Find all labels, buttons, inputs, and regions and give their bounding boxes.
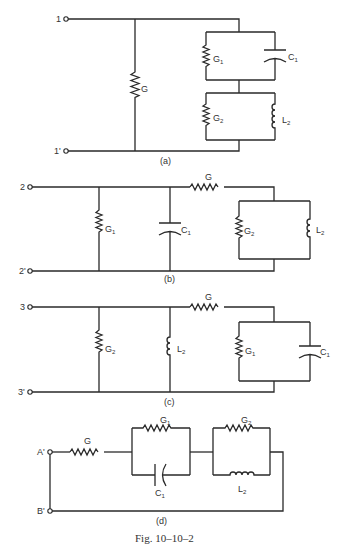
label-G1: G1 xyxy=(105,224,116,235)
terminal-2 xyxy=(28,185,32,189)
label-G: G xyxy=(141,84,148,94)
terminal-1 xyxy=(64,17,68,21)
wire xyxy=(132,428,190,475)
label-L2: L2 xyxy=(282,115,291,126)
label-C1: C1 xyxy=(288,52,299,63)
label-C1: C1 xyxy=(320,347,331,358)
wire xyxy=(68,140,239,151)
terminal-label-3prime: 3' xyxy=(18,387,25,397)
terminal-label-1prime: 1' xyxy=(54,146,61,156)
label-G1: G1 xyxy=(160,415,171,426)
label-G1: G1 xyxy=(213,54,224,65)
inductor-L2 xyxy=(272,93,275,140)
wire xyxy=(32,259,274,271)
resistor-G xyxy=(190,184,218,190)
terminal-3 xyxy=(28,305,32,309)
label-G1: G1 xyxy=(245,346,256,357)
label-G: G xyxy=(205,292,212,302)
panel-label-d: (d) xyxy=(156,516,167,526)
panel-label-b: (b) xyxy=(164,274,175,284)
resistor-G xyxy=(190,304,218,310)
resistor-G2 xyxy=(213,425,270,431)
terminal-label-1: 1 xyxy=(56,14,61,24)
terminal-label-3: 3 xyxy=(20,302,25,312)
terminal-2prime xyxy=(28,269,32,273)
resistor-G2 xyxy=(96,307,102,392)
wire xyxy=(224,307,274,322)
resistor-G1 xyxy=(96,187,102,271)
terminal-label-Bprime: B' xyxy=(37,506,45,516)
label-G2: G2 xyxy=(244,226,255,237)
circuit-figure: 1 1' G G1 C1 G2 L2 (a) 2 2' G xyxy=(0,0,341,553)
panel-b: 2 2' G G1 C1 G2 L2 (b) xyxy=(19,172,325,284)
terminal-label-Aprime: A' xyxy=(37,447,45,457)
inductor-L2 xyxy=(167,307,170,392)
terminal-Aprime xyxy=(48,450,52,454)
wire xyxy=(213,428,270,475)
resistor-G1 xyxy=(236,322,242,381)
resistor-G1 xyxy=(132,425,190,431)
inductor-L2 xyxy=(307,201,310,259)
terminal-label-2: 2 xyxy=(20,182,25,192)
terminal-3prime xyxy=(28,390,32,394)
capacitor-C1 xyxy=(264,32,286,80)
capacitor-C1 xyxy=(299,322,321,381)
terminal-Bprime xyxy=(48,509,52,513)
label-C1: C1 xyxy=(155,488,166,499)
resistor-G xyxy=(70,449,98,455)
label-G2: G2 xyxy=(213,113,224,124)
capacitor-C1 xyxy=(132,464,190,486)
inductor-L2 xyxy=(213,472,270,475)
panel-a: 1 1' G G1 C1 G2 L2 (a) xyxy=(54,14,299,166)
label-C1: C1 xyxy=(181,225,192,236)
figure-caption: Fig. 10–10–2 xyxy=(135,532,194,544)
panel-label-c: (c) xyxy=(164,397,175,407)
terminal-label-2prime: 2' xyxy=(19,266,26,276)
wire xyxy=(224,187,274,201)
label-G2: G2 xyxy=(105,344,116,355)
resistor-G1 xyxy=(203,32,209,80)
panel-label-a: (a) xyxy=(160,156,171,166)
wire xyxy=(52,452,283,511)
label-G: G xyxy=(205,172,212,182)
label-L2: L2 xyxy=(238,484,247,495)
panel-c: 3 3' G G2 L2 G1 C1 (c) xyxy=(18,292,331,407)
resistor-G2 xyxy=(203,93,209,140)
capacitor-C1 xyxy=(159,187,181,271)
resistor-G xyxy=(131,19,139,151)
wire xyxy=(68,19,239,32)
label-L2: L2 xyxy=(177,344,186,355)
wire xyxy=(32,381,274,392)
label-G: G xyxy=(84,436,91,446)
label-L2: L2 xyxy=(316,225,325,236)
terminal-1prime xyxy=(64,149,68,153)
label-G2: G2 xyxy=(241,415,252,426)
panel-d: A' B' G G1 C1 G2 L2 (d) xyxy=(37,415,283,526)
resistor-G2 xyxy=(236,201,242,259)
